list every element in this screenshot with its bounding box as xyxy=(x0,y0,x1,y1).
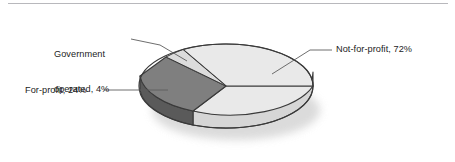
pie-chart-figure: Government operated, 4% For-profit, 24% … xyxy=(0,0,455,162)
pie-label-forprofit: For-profit, 24% xyxy=(25,85,87,97)
pie-label-government-line1: Government xyxy=(54,49,109,61)
pie-label-notforprofit: Not-for-profit, 72% xyxy=(336,44,412,56)
pie-label-government: Government operated, 4% xyxy=(54,26,109,118)
